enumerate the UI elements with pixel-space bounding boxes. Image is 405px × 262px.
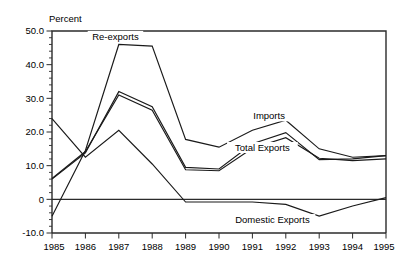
x-tick-label: 1991 [242,241,263,252]
x-tick-label: 1987 [108,241,129,252]
plot-frame [52,31,386,233]
x-tick-label: 1989 [175,241,196,252]
series-annotation-imports: Imports [253,110,285,121]
x-tick-label: 1988 [142,241,163,252]
line-chart: 50.040.030.020.010.00-10.019851986198719… [0,0,405,262]
x-tick-label: 1994 [342,241,363,252]
series-annotation-total-exports: Total Exports [235,142,290,153]
x-tick-label: 1985 [43,241,64,252]
y-tick-label: 20.0 [26,126,45,137]
x-tick-label: 1993 [309,241,330,252]
unit-label: Percent [49,13,82,24]
x-tick-label: 1986 [75,241,96,252]
y-tick-label: 40.0 [26,59,45,70]
chart-container: 50.040.030.020.010.00-10.019851986198719… [0,0,405,262]
y-tick-label: -10.0 [22,227,44,238]
series-annotation-domestic-exports: Domestic Exports [235,214,310,225]
y-tick-label: 10.0 [26,160,45,171]
x-tick-label: 1995 [373,241,394,252]
series-line-re-exports [52,44,386,216]
series-line-total-exports [52,95,386,178]
series-line-domestic-exports [52,119,386,217]
y-tick-label: 30.0 [26,93,45,104]
y-tick-label: 0 [39,194,44,205]
y-tick-label: 50.0 [26,25,45,36]
x-tick-label: 1992 [275,241,296,252]
x-tick-label: 1990 [208,241,229,252]
series-annotation-re-exports: Re-exports [92,31,139,42]
series-line-imports [52,92,386,180]
